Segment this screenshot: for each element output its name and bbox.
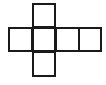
cube-face-far-right (78, 27, 102, 52)
cube-face-top (32, 3, 56, 28)
cube-face-center (32, 27, 56, 52)
cube-face-right (55, 27, 80, 52)
cube-face-bottom (32, 51, 56, 77)
cube-face-left (8, 27, 33, 52)
